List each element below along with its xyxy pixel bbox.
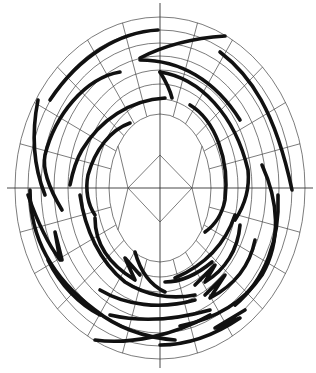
spiral-stroke xyxy=(70,98,165,185)
spiral-stroke xyxy=(140,36,225,58)
diagonal-line xyxy=(118,188,128,230)
diagonal-line xyxy=(192,188,202,230)
grid-spoke xyxy=(186,40,233,124)
cross-axes xyxy=(7,3,313,368)
spiral-stroke xyxy=(160,72,248,220)
diagonal-line xyxy=(118,146,128,188)
spiral-stroke xyxy=(220,52,292,190)
spiral-stroke xyxy=(50,30,158,100)
spiral-stroke xyxy=(95,218,140,280)
spiral-stroke xyxy=(140,60,240,120)
spiral-grid-diagram xyxy=(0,0,316,373)
diagonal-line xyxy=(192,146,202,188)
